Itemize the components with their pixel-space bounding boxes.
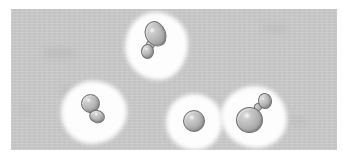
- yeast-cell-mother: [236, 107, 263, 133]
- yeast-cell-bud: [141, 44, 154, 59]
- object-count: 4: [0, 0, 1, 1]
- micrograph-canvas: [11, 9, 337, 150]
- figure-title: Budding yeast cells micrograph: [0, 0, 1, 1]
- yeast-cell-mother: [183, 110, 205, 132]
- background-smudge: [262, 24, 288, 33]
- background-smudge: [42, 47, 76, 59]
- micrograph-figure: Budding yeast cells micrograph 4: [0, 0, 343, 158]
- background-smudge: [287, 118, 307, 125]
- background-smudge: [20, 106, 29, 112]
